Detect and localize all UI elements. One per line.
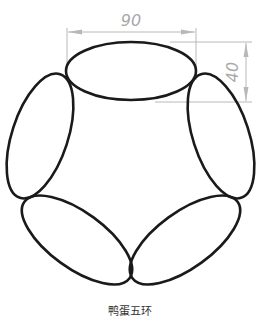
diagram-caption: 鸭蛋五环 [0,302,259,318]
top-ellipse [66,42,196,100]
upper-left-ellipse [0,66,87,207]
height-arrow-top-icon [244,43,249,57]
width-arrow-right-icon [181,30,195,35]
width-arrow-left-icon [68,30,82,35]
rings [0,42,259,301]
width-dimension [67,28,196,80]
lower-left-ellipse [8,179,146,301]
lower-right-ellipse [116,179,254,301]
height-arrow-bottom-icon [244,87,249,101]
width-dimension-label: 90 [121,11,141,30]
height-dimension-label: 40 [223,62,242,82]
duck-egg-five-rings-drawing: 90 40 [0,0,259,321]
